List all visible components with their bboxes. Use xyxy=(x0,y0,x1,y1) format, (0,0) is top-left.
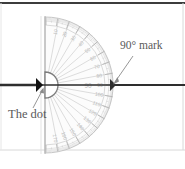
protractor-figure: 1020304050607080901001101201301401501601… xyxy=(0,0,185,169)
the-dot-label: The dot xyxy=(8,107,47,121)
dot-leader-arrowhead xyxy=(40,88,45,94)
ninety-degree-mark-label: 90° mark xyxy=(120,39,163,51)
protractor-diagram-canvas: 1020304050607080901001101201301401501601… xyxy=(0,0,185,169)
